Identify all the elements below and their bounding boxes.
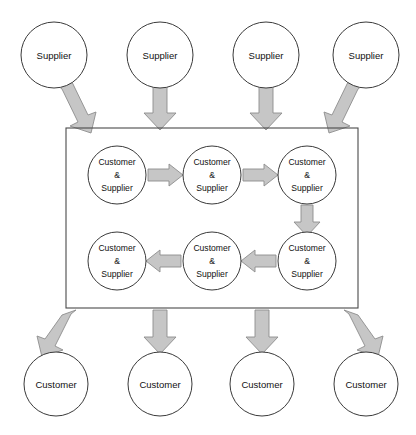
internal-node-line1: Customer (193, 157, 230, 167)
internal-node-line2: & (209, 256, 215, 266)
node-supplier-4[interactable]: Supplier (333, 22, 399, 88)
internal-node-line1: Customer (288, 243, 325, 253)
internal-node-line2: & (304, 170, 310, 180)
node-customer-3[interactable]: Customer (230, 352, 294, 416)
node-supplier-1[interactable]: Supplier (21, 22, 87, 88)
internal-node-line3: Supplier (291, 269, 323, 279)
customer-label: Customer (345, 379, 386, 390)
internal-node-line2: & (114, 170, 120, 180)
internal-node-line3: Supplier (101, 183, 133, 193)
supplier-label: Supplier (37, 50, 72, 61)
arrow-supplier-4-in (324, 80, 363, 133)
node-internal-1[interactable]: Customer & Supplier (88, 146, 146, 204)
arrow-internal-3-4 (294, 205, 320, 236)
internal-node-line3: Supplier (196, 269, 228, 279)
node-customer-4[interactable]: Customer (334, 352, 398, 416)
node-internal-4[interactable]: Customer & Supplier (278, 232, 336, 290)
internal-node-line1: Customer (288, 157, 325, 167)
customer-label: Customer (241, 379, 282, 390)
arrow-internal-4-5 (241, 250, 276, 272)
internal-node-line2: & (304, 256, 310, 266)
node-internal-6[interactable]: Customer & Supplier (88, 232, 146, 290)
node-customer-2[interactable]: Customer (128, 352, 192, 416)
internal-node-line1: Customer (193, 243, 230, 253)
node-supplier-2[interactable]: Supplier (127, 22, 193, 88)
internal-node-line2: & (209, 170, 215, 180)
arrow-internal-5-6 (146, 250, 181, 272)
supply-chain-diagram: Supplier Supplier Supplier Supplier Cust… (0, 0, 416, 435)
internal-node-line3: Supplier (291, 183, 323, 193)
arrow-out-customer-4 (344, 310, 383, 357)
node-internal-5[interactable]: Customer & Supplier (183, 232, 241, 290)
supplier-label: Supplier (349, 50, 384, 61)
supplier-label: Supplier (249, 50, 284, 61)
arrow-internal-1-2 (148, 164, 183, 186)
supplier-label: Supplier (143, 50, 178, 61)
customer-label: Customer (35, 379, 76, 390)
arrow-internal-2-3 (243, 164, 278, 186)
arrow-out-customer-3 (246, 310, 278, 354)
node-customer-1[interactable]: Customer (24, 352, 88, 416)
arrow-supplier-3-in (250, 87, 282, 130)
arrow-supplier-2-in (144, 87, 176, 130)
internal-node-line1: Customer (98, 157, 135, 167)
diagram-canvas: Supplier Supplier Supplier Supplier Cust… (0, 0, 416, 435)
internal-node-line1: Customer (98, 243, 135, 253)
customer-label: Customer (139, 379, 180, 390)
internal-node-line2: & (114, 256, 120, 266)
internal-node-line3: Supplier (101, 269, 133, 279)
node-internal-3[interactable]: Customer & Supplier (278, 146, 336, 204)
node-internal-2[interactable]: Customer & Supplier (183, 146, 241, 204)
internal-node-line3: Supplier (196, 183, 228, 193)
arrow-out-customer-2 (144, 310, 176, 354)
node-supplier-3[interactable]: Supplier (233, 22, 299, 88)
arrow-supplier-1-in (57, 80, 96, 133)
arrow-out-customer-1 (37, 310, 76, 357)
